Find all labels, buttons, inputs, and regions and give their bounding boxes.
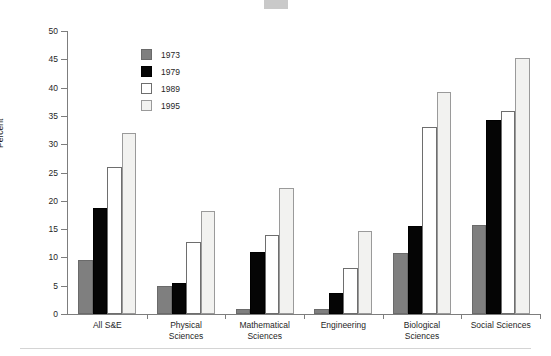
bar-physical-sciences-1995 [201,211,216,314]
legend-swatch-icon [141,100,152,111]
chart-legend: 1973197919891995 [141,46,231,114]
bar-social-sciences-1995 [515,58,530,314]
bar-biological-sciences-1973 [393,253,408,314]
legend-item-label: 1989 [161,84,180,94]
y-axis-tick [61,116,67,117]
y-axis-tick [61,88,67,89]
plot-area [68,31,540,314]
bar-social-sciences-1979 [486,120,501,314]
y-axis-tick [61,173,67,174]
legend-item-1979[interactable]: 1979 [141,63,231,80]
x-axis-tick [540,314,541,319]
bar-physical-sciences-1989 [186,242,201,314]
y-axis-tick-label: 50 [6,27,58,36]
bar-physical-sciences-1973 [157,286,172,314]
y-axis-tick-label: 45 [6,55,58,64]
y-axis-tick-label: 40 [6,84,58,93]
y-axis-tick [61,229,67,230]
bar-mathematical-sciences-1995 [279,188,294,314]
bar-all-s-e-1989 [107,167,122,314]
x-axis-category-label-line: Sciences [373,331,472,342]
y-axis-tick-label: 25 [6,169,58,178]
bar-biological-sciences-1989 [422,127,437,314]
y-axis-tick [61,257,67,258]
y-axis-tick [61,144,67,145]
legend-swatch-icon [141,83,152,94]
bar-engineering-1979 [329,293,344,314]
y-axis-tick [61,201,67,202]
y-axis-tick-label: 10 [6,253,58,262]
x-axis-tick [147,314,148,319]
bar-physical-sciences-1979 [172,283,187,314]
footer-divider [20,348,531,349]
legend-item-label: 1973 [161,50,180,60]
y-axis-tick-label: 15 [6,225,58,234]
legend-swatch-icon [141,49,152,60]
x-axis-category-label-line: Social Sciences [451,320,550,331]
legend-swatch-icon [141,66,152,77]
y-axis-tick-label: 20 [6,197,58,206]
bar-engineering-1995 [358,231,373,314]
y-axis-tick [61,31,67,32]
grouped-bar-chart: Percent 05101520253035404550 All S&EPhys… [0,0,551,330]
bar-all-s-e-1973 [78,260,93,314]
legend-item-label: 1995 [161,101,180,111]
chart-page: Percent 05101520253035404550 All S&EPhys… [0,0,551,356]
bar-mathematical-sciences-1979 [250,252,265,314]
bar-all-s-e-1979 [93,208,108,314]
x-axis-tick [225,314,226,319]
bar-social-sciences-1973 [472,225,487,314]
bar-mathematical-sciences-1989 [265,235,280,314]
y-axis-title: Percent [0,119,5,148]
x-axis-category-label-line: Sciences [215,331,314,342]
y-axis-tick-label: 0 [6,310,58,319]
legend-item-1989[interactable]: 1989 [141,80,231,97]
x-axis-tick [383,314,384,319]
bar-biological-sciences-1979 [408,226,423,314]
y-axis-tick-label: 5 [6,282,58,291]
bar-mathematical-sciences-1973 [236,309,251,314]
bar-social-sciences-1989 [501,111,516,314]
y-axis-tick-label: 30 [6,140,58,149]
legend-item-label: 1979 [161,67,180,77]
y-axis-tick [61,286,67,287]
x-axis-tick [461,314,462,319]
bar-all-s-e-1995 [122,133,137,314]
bar-engineering-1989 [343,268,358,314]
y-axis-tick-label: 35 [6,112,58,121]
x-axis-tick [304,314,305,319]
x-axis-category-label: Social Sciences [451,320,550,331]
bar-biological-sciences-1995 [437,92,452,314]
y-axis-tick [61,314,67,315]
legend-item-1995[interactable]: 1995 [141,97,231,114]
bar-engineering-1973 [314,309,329,314]
legend-item-1973[interactable]: 1973 [141,46,231,63]
y-axis-tick [61,59,67,60]
